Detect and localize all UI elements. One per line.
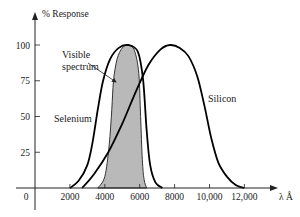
annotation-label: Selenium: [54, 113, 92, 124]
axes: [16, 12, 278, 210]
x-tick-label: 8000: [165, 192, 184, 202]
spectral-response-chart: 0200040006000800010,00012,000255075100 %…: [0, 0, 300, 217]
x-tick-label: 10,000: [196, 192, 222, 202]
x-axis-title: λ Å: [279, 191, 293, 202]
x-axis-arrow-icon: [270, 185, 278, 191]
visible-spectrum-curve: [98, 45, 147, 188]
visible-spectrum-pointer-arrow: [88, 63, 116, 82]
y-tick-label: 50: [21, 112, 31, 122]
y-axis-title: % Response: [42, 9, 89, 19]
x-tick-label: 12,000: [231, 192, 257, 202]
annotation-label: Silicon: [208, 93, 236, 104]
x-tick-label: 0: [24, 192, 29, 202]
y-tick-label: 100: [16, 41, 31, 51]
x-tick-label: 6000: [130, 192, 149, 202]
x-tick-label: 2000: [60, 192, 79, 202]
x-tick-label: 4000: [95, 192, 114, 202]
y-tick-label: 25: [21, 148, 31, 158]
y-axis-arrow-icon: [32, 12, 38, 20]
y-tick-label: 75: [21, 76, 31, 86]
annotation-label: Visible: [62, 49, 91, 60]
